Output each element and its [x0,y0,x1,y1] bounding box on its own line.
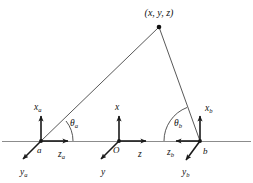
geometry-diagram: (x, y, z) xa za ya θa a x [0,0,253,183]
frame-b-y-axis [186,141,200,160]
frame-a-angle-label: θa [70,118,79,129]
frame-b: xb zb yb θb b [164,103,213,178]
frame-a-y-axis-label: ya [19,167,28,178]
frame-a-origin-label: a [37,145,42,155]
frame-b-y-axis-label: yb [181,167,190,178]
frame-a-z-axis-label: za [57,149,66,160]
frame-o-z-axis-label: z [137,149,142,159]
target-point-marker [157,25,162,30]
frame-b-origin-label: b [203,146,208,156]
frame-o-x-axis-label: x [114,102,120,112]
frame-b-z-axis-label: zb [166,147,175,158]
target-point-label: (x, y, z) [145,7,175,19]
frame-b-x-axis-label: xb [204,103,213,114]
figure-container: (x, y, z) xa za ya θa a x [0,0,253,183]
frame-o: x z y O [100,102,146,177]
frame-o-y-axis-label: y [100,167,106,177]
frame-o-origin-label: O [113,145,120,155]
ray-a-to-target [41,27,159,141]
frame-a-x-axis-label: xa [33,102,42,113]
frame-b-angle-label: θb [174,118,183,129]
